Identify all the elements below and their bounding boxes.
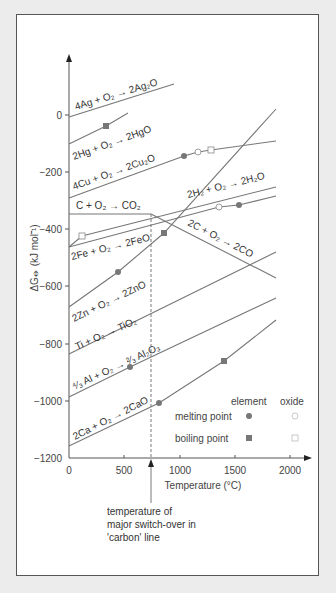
ca-melting-marker xyxy=(156,400,162,406)
h2o-boiling-marker xyxy=(79,233,85,239)
label-ca: 2Ca + O₂ → 2CaO xyxy=(71,394,150,442)
feo-melting-marker xyxy=(216,204,222,210)
x-tick-0: 0 xyxy=(66,465,72,476)
label-ti: Ti + O₂ → TiO₂ xyxy=(73,315,138,352)
note-line-3: 'carbon' line xyxy=(107,531,196,544)
y-tick-200: −200 xyxy=(39,167,62,178)
legend-melting-label: melting point xyxy=(175,411,232,422)
label-co: 2C + O₂ → 2CO xyxy=(186,217,255,260)
ca-boiling-marker xyxy=(221,358,227,364)
x-tick-1500: 1500 xyxy=(224,465,247,476)
y-axis-label: ΔG⦵ (kJ mol⁻¹) xyxy=(29,224,40,291)
y-tick-400: −400 xyxy=(39,224,62,235)
y-tick-1200: −1200 xyxy=(34,453,63,464)
note-line-2: major switch-over in xyxy=(107,518,196,531)
legend-oxide-boiling-icon xyxy=(292,435,298,441)
label-h2: 2H₂ + O₂ → 2H₂O xyxy=(186,170,266,200)
x-tick-2000: 2000 xyxy=(279,465,302,476)
cu2o-melting-marker xyxy=(195,149,201,155)
note-line-1: temperature of xyxy=(107,505,196,518)
x-tick-500: 500 xyxy=(116,465,133,476)
y-tick-0: 0 xyxy=(56,110,62,121)
label-ag: 4Ag + O₂ → 2Ag₂O xyxy=(73,76,159,112)
legend-element-boiling-icon xyxy=(246,435,252,441)
line-al xyxy=(69,298,276,397)
cu2o-boiling-marker xyxy=(208,147,214,153)
y-tick-600: −600 xyxy=(39,281,62,292)
x-axis-label: Temperature (°C) xyxy=(165,480,242,491)
label-zn: 2Zn + O₂ → 2ZnO xyxy=(70,278,148,323)
label-c: C + O₂ → CO₂ xyxy=(76,200,141,211)
legend-oxide-header: oxide xyxy=(280,396,304,407)
switch-over-arrow-icon xyxy=(148,459,154,467)
x-tick-1000: 1000 xyxy=(169,465,192,476)
fe-melting-marker xyxy=(236,202,242,208)
y-axis-arrow-icon xyxy=(66,54,72,62)
y-tick-1000: −1000 xyxy=(34,396,63,407)
legend-boiling-label: boiling point xyxy=(175,433,229,444)
legend-element-header: element xyxy=(231,396,267,407)
hg-boiling-marker xyxy=(103,123,109,129)
y-tick-800: −800 xyxy=(39,339,62,350)
cu-melting-marker xyxy=(181,153,187,159)
zn-melting-marker xyxy=(115,269,121,275)
zn-boiling-marker xyxy=(161,230,167,236)
x-axis-arrow-icon xyxy=(304,455,312,461)
legend-oxide-melting-icon xyxy=(292,413,298,419)
line-co xyxy=(151,214,276,278)
legend-element-melting-icon xyxy=(246,413,252,419)
switch-over-note: temperature of major switch-over in 'car… xyxy=(107,505,196,544)
line-h2o xyxy=(69,187,276,247)
